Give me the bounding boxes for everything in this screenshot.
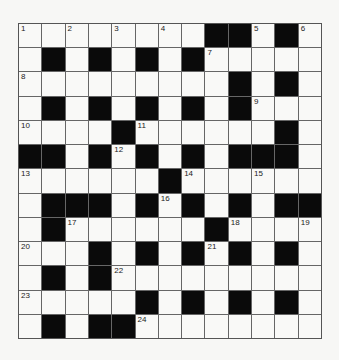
answer-cell[interactable] — [159, 121, 181, 144]
answer-cell[interactable] — [66, 266, 88, 289]
answer-cell[interactable] — [205, 72, 227, 95]
answer-cell[interactable] — [299, 48, 321, 71]
answer-cell[interactable]: 9 — [252, 97, 274, 120]
answer-cell[interactable] — [19, 48, 41, 71]
answer-cell[interactable] — [229, 315, 251, 338]
answer-cell[interactable] — [275, 266, 297, 289]
answer-cell[interactable] — [42, 169, 64, 192]
answer-cell[interactable] — [42, 24, 64, 47]
answer-cell[interactable]: 11 — [136, 121, 158, 144]
answer-cell[interactable] — [66, 48, 88, 71]
answer-cell[interactable] — [136, 72, 158, 95]
answer-cell[interactable] — [252, 72, 274, 95]
answer-cell[interactable] — [112, 97, 134, 120]
answer-cell[interactable]: 14 — [182, 169, 204, 192]
answer-cell[interactable] — [159, 145, 181, 168]
answer-cell[interactable] — [275, 48, 297, 71]
answer-cell[interactable] — [89, 121, 111, 144]
answer-cell[interactable]: 5 — [252, 24, 274, 47]
answer-cell[interactable] — [159, 97, 181, 120]
answer-cell[interactable] — [159, 291, 181, 314]
answer-cell[interactable] — [89, 24, 111, 47]
answer-cell[interactable] — [159, 315, 181, 338]
answer-cell[interactable]: 15 — [252, 169, 274, 192]
answer-cell[interactable] — [299, 97, 321, 120]
answer-cell[interactable] — [19, 266, 41, 289]
answer-cell[interactable] — [66, 242, 88, 265]
answer-cell[interactable] — [252, 315, 274, 338]
answer-cell[interactable] — [205, 266, 227, 289]
answer-cell[interactable] — [182, 266, 204, 289]
answer-cell[interactable] — [252, 242, 274, 265]
answer-cell[interactable] — [66, 315, 88, 338]
answer-cell[interactable] — [252, 48, 274, 71]
answer-cell[interactable] — [19, 315, 41, 338]
answer-cell[interactable] — [252, 218, 274, 241]
answer-cell[interactable]: 16 — [159, 194, 181, 217]
answer-cell[interactable] — [159, 72, 181, 95]
answer-cell[interactable] — [252, 291, 274, 314]
answer-cell[interactable] — [205, 121, 227, 144]
answer-cell[interactable]: 17 — [66, 218, 88, 241]
answer-cell[interactable] — [112, 194, 134, 217]
answer-cell[interactable] — [19, 218, 41, 241]
answer-cell[interactable] — [182, 72, 204, 95]
answer-cell[interactable] — [205, 145, 227, 168]
answer-cell[interactable] — [19, 97, 41, 120]
answer-cell[interactable]: 22 — [112, 266, 134, 289]
answer-cell[interactable] — [182, 218, 204, 241]
answer-cell[interactable] — [42, 121, 64, 144]
answer-cell[interactable] — [19, 194, 41, 217]
answer-cell[interactable] — [112, 218, 134, 241]
answer-cell[interactable]: 12 — [112, 145, 134, 168]
answer-cell[interactable] — [299, 72, 321, 95]
answer-cell[interactable]: 4 — [159, 24, 181, 47]
answer-cell[interactable] — [159, 242, 181, 265]
answer-cell[interactable] — [252, 121, 274, 144]
answer-cell[interactable] — [42, 291, 64, 314]
answer-cell[interactable] — [112, 48, 134, 71]
answer-cell[interactable]: 7 — [205, 48, 227, 71]
answer-cell[interactable] — [299, 169, 321, 192]
answer-cell[interactable] — [66, 291, 88, 314]
answer-cell[interactable]: 21 — [205, 242, 227, 265]
answer-cell[interactable]: 1 — [19, 24, 41, 47]
answer-cell[interactable]: 20 — [19, 242, 41, 265]
answer-cell[interactable]: 19 — [299, 218, 321, 241]
answer-cell[interactable] — [136, 266, 158, 289]
answer-cell[interactable] — [42, 72, 64, 95]
answer-cell[interactable] — [299, 315, 321, 338]
answer-cell[interactable] — [66, 145, 88, 168]
answer-cell[interactable] — [205, 97, 227, 120]
answer-cell[interactable] — [182, 121, 204, 144]
answer-cell[interactable] — [182, 315, 204, 338]
answer-cell[interactable] — [89, 72, 111, 95]
answer-cell[interactable] — [299, 291, 321, 314]
answer-cell[interactable] — [229, 121, 251, 144]
answer-cell[interactable] — [89, 169, 111, 192]
answer-cell[interactable] — [299, 145, 321, 168]
answer-cell[interactable] — [205, 169, 227, 192]
answer-cell[interactable] — [159, 218, 181, 241]
answer-cell[interactable]: 23 — [19, 291, 41, 314]
answer-cell[interactable] — [229, 169, 251, 192]
answer-cell[interactable] — [159, 48, 181, 71]
answer-cell[interactable]: 18 — [229, 218, 251, 241]
answer-cell[interactable] — [229, 266, 251, 289]
answer-cell[interactable] — [275, 218, 297, 241]
answer-cell[interactable] — [182, 24, 204, 47]
answer-cell[interactable] — [136, 24, 158, 47]
answer-cell[interactable] — [205, 194, 227, 217]
answer-cell[interactable] — [66, 72, 88, 95]
answer-cell[interactable]: 6 — [299, 24, 321, 47]
answer-cell[interactable] — [42, 242, 64, 265]
answer-cell[interactable]: 2 — [66, 24, 88, 47]
answer-cell[interactable]: 3 — [112, 24, 134, 47]
answer-cell[interactable]: 24 — [136, 315, 158, 338]
answer-cell[interactable] — [275, 169, 297, 192]
answer-cell[interactable] — [136, 169, 158, 192]
answer-cell[interactable] — [112, 72, 134, 95]
answer-cell[interactable] — [112, 169, 134, 192]
answer-cell[interactable] — [299, 266, 321, 289]
answer-cell[interactable] — [252, 194, 274, 217]
